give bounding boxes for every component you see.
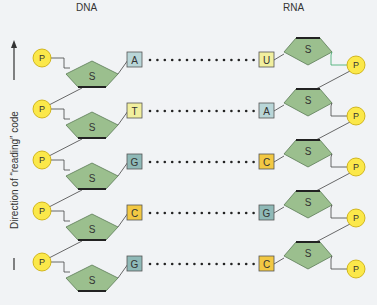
hydrogen-bond-dot (193, 263, 196, 266)
hydrogen-bond-dot (238, 161, 241, 164)
hydrogen-bond-dot (178, 212, 181, 215)
hydrogen-bond-dot (201, 161, 204, 164)
phosphate-label: P (39, 104, 45, 114)
hydrogen-bond-dot (252, 110, 255, 113)
dna-base-label: A (131, 55, 138, 66)
hydrogen-bond-dot (208, 110, 211, 113)
phosphate-label: P (39, 257, 45, 267)
hydrogen-bond-dot (193, 59, 196, 62)
dna-base-label: C (131, 208, 138, 219)
hydrogen-bond-dot (245, 263, 248, 266)
hydrogen-bond-dot (208, 161, 211, 164)
hydrogen-bond-dot (215, 161, 218, 164)
hydrogen-bond-dot (149, 212, 152, 215)
hydrogen-bond-dot (193, 110, 196, 113)
hydrogen-bond-dot (156, 263, 159, 266)
sugar-label: S (89, 173, 96, 184)
hydrogen-bond-dot (171, 263, 174, 266)
hydrogen-bond-dot (149, 59, 152, 62)
hydrogen-bond-dot (252, 59, 255, 62)
phosphate-label: P (353, 264, 359, 274)
hydrogen-bond-dot (245, 110, 248, 113)
dna-rna-diagram: Direction of “reading” codeSPAUSPSPTASPS… (0, 0, 377, 305)
hydrogen-bond-dot (164, 212, 167, 215)
sugar-label: S (305, 248, 312, 259)
reading-direction-label: Direction of “reading” code (9, 111, 20, 229)
hydrogen-bond-dot (223, 212, 226, 215)
sugar-label: S (89, 224, 96, 235)
phosphate-label: P (353, 213, 359, 223)
rna-base-label: G (263, 208, 271, 219)
rna-base-label: C (263, 157, 270, 168)
hydrogen-bond-dot (193, 161, 196, 164)
base-pair-row: SPGCSP (33, 242, 365, 291)
sugar-label: S (305, 197, 312, 208)
hydrogen-bond-dot (245, 59, 248, 62)
hydrogen-bond-dot (171, 161, 174, 164)
dna-base-label: G (131, 157, 139, 168)
sugar-label: S (89, 71, 96, 82)
sugar-label: S (305, 146, 312, 157)
hydrogen-bond-dot (238, 263, 241, 266)
hydrogen-bond-dot (178, 110, 181, 113)
rna-base-label: U (263, 55, 270, 66)
hydrogen-bond-dot (186, 110, 189, 113)
hydrogen-bond-dot (215, 110, 218, 113)
phosphate-label: P (353, 162, 359, 172)
hydrogen-bond-dot (238, 110, 241, 113)
hydrogen-bond-dot (201, 263, 204, 266)
hydrogen-bond-dot (252, 263, 255, 266)
phosphate-label: P (353, 60, 359, 70)
hydrogen-bond-dot (149, 263, 152, 266)
hydrogen-bond-dot (223, 263, 226, 266)
hydrogen-bond-dot (245, 161, 248, 164)
sugar-label: S (89, 122, 96, 133)
hydrogen-bond-dot (171, 212, 174, 215)
hydrogen-bond-dot (245, 212, 248, 215)
hydrogen-bond-dot (178, 263, 181, 266)
hydrogen-bond-dot (164, 110, 167, 113)
hydrogen-bond-dot (252, 212, 255, 215)
hydrogen-bond-dot (230, 212, 233, 215)
hydrogen-bond-dot (230, 161, 233, 164)
dna-base-label: G (131, 259, 139, 270)
hydrogen-bond-dot (186, 161, 189, 164)
sugar-label: S (89, 275, 96, 286)
phosphate-label: P (353, 111, 359, 121)
hydrogen-bond-dot (208, 59, 211, 62)
hydrogen-bond-dot (215, 59, 218, 62)
sugar-label: S (305, 44, 312, 55)
rna-base-label: A (263, 106, 270, 117)
hydrogen-bond-dot (230, 110, 233, 113)
hydrogen-bond-dot (230, 59, 233, 62)
hydrogen-bond-dot (171, 59, 174, 62)
hydrogen-bond-dot (178, 59, 181, 62)
hydrogen-bond-dot (215, 212, 218, 215)
hydrogen-bond-dot (193, 212, 196, 215)
hydrogen-bond-dot (171, 110, 174, 113)
hydrogen-bond-dot (164, 59, 167, 62)
phosphate-label: P (39, 155, 45, 165)
sugar-label: S (305, 95, 312, 106)
hydrogen-bond-dot (223, 161, 226, 164)
dna-base-label: T (131, 106, 137, 117)
hydrogen-bond-dot (238, 59, 241, 62)
hydrogen-bond-dot (186, 212, 189, 215)
hydrogen-bond-dot (201, 59, 204, 62)
phosphate-label: P (39, 206, 45, 216)
rna-base-label: C (263, 259, 270, 270)
hydrogen-bond-dot (208, 263, 211, 266)
phosphate-label: P (39, 53, 45, 63)
hydrogen-bond-dot (223, 59, 226, 62)
hydrogen-bond-dot (186, 263, 189, 266)
hydrogen-bond-dot (164, 263, 167, 266)
hydrogen-bond-dot (252, 161, 255, 164)
hydrogen-bond-dot (186, 59, 189, 62)
hydrogen-bond-dot (156, 161, 159, 164)
hydrogen-bond-dot (230, 263, 233, 266)
hydrogen-bond-dot (201, 212, 204, 215)
hydrogen-bond-dot (215, 263, 218, 266)
hydrogen-bond-dot (156, 110, 159, 113)
hydrogen-bond-dot (208, 212, 211, 215)
hydrogen-bond-dot (156, 59, 159, 62)
